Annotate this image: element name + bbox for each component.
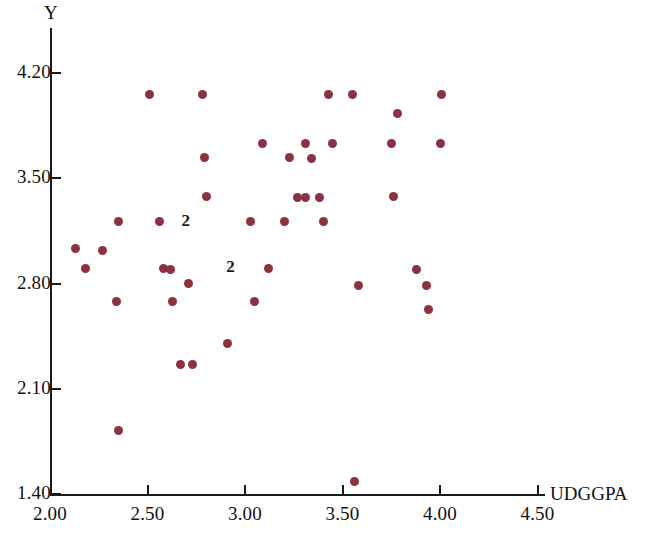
data-point [354,281,363,290]
x-tick-label: 2.00 [15,503,85,525]
data-point [328,139,337,148]
x-tick-mark [537,485,539,494]
overlap-count-label: 2 [182,211,191,231]
data-point [198,90,207,99]
data-point [436,139,445,148]
y-tick-label: 3.50 [0,166,51,188]
data-point [114,217,123,226]
scatter-plot-figure: Y UDGGPA 4.203.502.802.101.40 2.002.503.… [0,0,655,540]
y-tick-label: 2.10 [0,377,51,399]
data-point [393,109,402,118]
data-point [387,139,396,148]
overlap-count-label: 2 [226,257,235,277]
y-axis-line [50,28,52,496]
x-tick-mark [342,485,344,494]
data-point [155,217,164,226]
data-point [422,281,431,290]
data-point [176,360,185,369]
x-tick-label: 3.50 [308,503,378,525]
data-point [223,339,232,348]
x-tick-mark [439,485,441,494]
data-point [285,153,294,162]
data-point [315,193,324,202]
data-point [264,264,273,273]
x-tick-mark [147,485,149,494]
x-axis-line [50,494,545,496]
data-point [348,90,357,99]
y-tick-mark [52,283,61,285]
data-point [184,279,193,288]
data-point [437,90,446,99]
y-tick-label: 2.80 [0,272,51,294]
y-tick-mark [52,388,61,390]
data-point [168,297,177,306]
data-point [324,90,333,99]
x-tick-label: 4.50 [503,503,573,525]
data-point [250,297,259,306]
data-point [258,139,267,148]
x-tick-mark [244,485,246,494]
x-tick-label: 4.00 [405,503,475,525]
data-point [166,265,175,274]
data-point [246,217,255,226]
data-point [71,244,80,253]
y-axis-title: Y [44,2,58,24]
data-point [424,305,433,314]
data-point [112,297,121,306]
data-point [81,264,90,273]
data-point [202,192,211,201]
data-point [350,477,359,486]
y-tick-mark [52,493,61,495]
data-point [389,192,398,201]
data-point [307,154,316,163]
data-point [114,426,123,435]
data-point [145,90,154,99]
data-point [319,217,328,226]
x-tick-label: 2.50 [113,503,183,525]
y-tick-mark [52,72,61,74]
x-tick-label: 3.00 [210,503,280,525]
data-point [412,265,421,274]
x-axis-title: UDGGPA [550,483,627,505]
data-point [280,217,289,226]
data-point [188,360,197,369]
data-point [98,246,107,255]
data-point [301,139,310,148]
data-point [301,193,310,202]
y-tick-label: 1.40 [0,482,51,504]
y-tick-mark [52,177,61,179]
data-point [200,153,209,162]
y-tick-label: 4.20 [0,61,51,83]
